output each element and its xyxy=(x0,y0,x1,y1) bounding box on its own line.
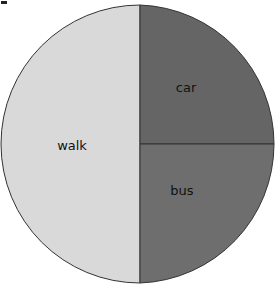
pie-chart: walk car bus xyxy=(0,0,280,290)
label-walk: walk xyxy=(57,138,87,153)
label-car: car xyxy=(176,80,197,95)
label-bus: bus xyxy=(170,183,193,198)
slice-car xyxy=(140,5,274,144)
slice-bus xyxy=(140,144,274,283)
